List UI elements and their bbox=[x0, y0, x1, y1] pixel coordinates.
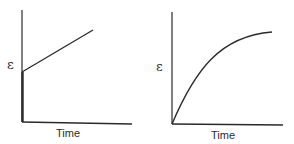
left-x-axis bbox=[22, 122, 132, 124]
right-y-axis-label: ε bbox=[156, 60, 163, 73]
right-strain-curve bbox=[172, 32, 272, 124]
left-plot bbox=[22, 10, 132, 124]
left-creep-line bbox=[22, 30, 93, 72]
diagram-canvas bbox=[0, 0, 294, 144]
left-x-axis-label: Time bbox=[56, 128, 80, 139]
right-plot bbox=[172, 12, 283, 125]
right-x-axis-label: Time bbox=[211, 130, 235, 141]
right-x-axis bbox=[172, 124, 283, 125]
left-y-axis-label: ε bbox=[7, 58, 14, 71]
